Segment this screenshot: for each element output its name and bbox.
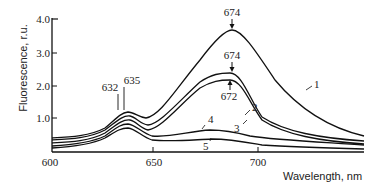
- peak-672-label: 672: [221, 90, 238, 102]
- peak-635-label: 635: [124, 74, 141, 86]
- fluorescence-chart: 4.0 3.0 2.0 1.0 600 650 700 Fluorescence…: [0, 0, 379, 186]
- y-tick-1: 1.0: [36, 112, 50, 124]
- y-axis-label: Fluorescence, r.u.: [17, 24, 29, 111]
- peak-674-top-label: 674: [224, 6, 241, 18]
- curve-label-2: 2: [252, 101, 258, 113]
- peak-632-label: 632: [102, 81, 119, 93]
- x-tick-600: 600: [42, 156, 59, 168]
- curve-label-1: 1: [314, 78, 320, 90]
- y-tick-2: 2.0: [36, 80, 50, 92]
- curve-label-4: 4: [208, 113, 214, 125]
- x-axis-label: Wavelength, nm: [283, 170, 362, 182]
- curve-label-3: 3: [234, 122, 240, 134]
- x-tick-650: 650: [146, 156, 163, 168]
- y-tick-3: 3.0: [36, 47, 50, 59]
- y-tick-4: 4.0: [36, 13, 50, 25]
- curve-label-5: 5: [203, 140, 209, 152]
- x-tick-700: 700: [250, 156, 267, 168]
- peak-674-mid-label: 674: [224, 49, 241, 61]
